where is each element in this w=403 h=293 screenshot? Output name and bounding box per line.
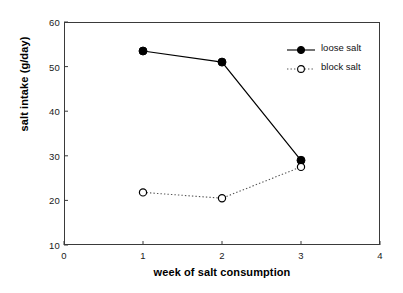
legend-label-block-salt: block salt: [321, 61, 361, 72]
legend-item-loose-salt[interactable]: loose salt: [286, 38, 361, 57]
data-series-layer: [139, 47, 305, 202]
legend-label-loose-salt: loose salt: [321, 42, 361, 53]
data-point-block-salt-w1: [139, 189, 146, 196]
series-block-salt: [139, 163, 304, 202]
legend-marker-filled-circle-icon: [286, 42, 316, 54]
data-point-block-salt-w2: [218, 195, 225, 202]
chart-container: 10 20 30 40 50 60 0 1 2 3 4 salt intake …: [0, 0, 403, 293]
legend-marker-open-circle-icon: [286, 61, 316, 73]
legend: loose salt block salt: [286, 38, 361, 76]
data-point-loose-salt-w1: [139, 47, 147, 55]
series-loose-salt: [139, 47, 305, 164]
data-point-loose-salt-w2: [218, 58, 226, 66]
legend-item-block-salt[interactable]: block salt: [286, 57, 361, 76]
data-point-block-salt-w3: [297, 163, 304, 170]
